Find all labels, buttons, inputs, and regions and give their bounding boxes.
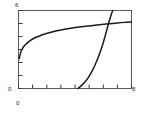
y-axis-min-label: 0: [8, 86, 11, 92]
chart-figure: 6 0 0 8: [0, 0, 141, 118]
y-axis-max-label: 6: [15, 2, 18, 8]
x-axis-ticks: [19, 85, 132, 89]
plot-canvas: [0, 0, 141, 118]
data-series-layer: [19, 11, 131, 89]
axes-box: [19, 11, 132, 89]
x-axis-min-label: 0: [16, 100, 19, 106]
exponential-curve: [78, 11, 113, 89]
x-axis-max-label: 8: [132, 86, 135, 92]
logarithmic-curve: [19, 22, 131, 59]
axes-frame: [19, 11, 132, 89]
